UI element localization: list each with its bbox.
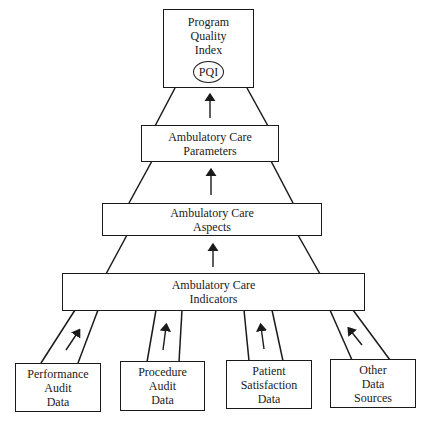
source-label-line: Data (47, 395, 70, 409)
tier-label-line: Ambulatory Care (172, 278, 256, 292)
arrow-up-icon (261, 327, 264, 349)
source-box-performance-audit: Performance Audit Data (15, 363, 101, 412)
tier-label-line: Ambulatory Care (168, 130, 252, 144)
source-label-line: Procedure (138, 365, 187, 379)
source-label-line: Data (151, 393, 174, 407)
source-label-line: Satisfaction (241, 378, 298, 392)
source-label-line: Sources (354, 391, 392, 405)
source-box-other-sources: Other Data Sources (330, 359, 416, 408)
source-label-line: Other (359, 363, 386, 377)
indicators-box: Ambulatory Care Indicators (62, 273, 365, 311)
tier-label-line: Ambulatory Care (170, 206, 254, 220)
pqi-label-line: Program (188, 15, 229, 29)
source-label-line: Data (258, 392, 281, 406)
source-label-line: Audit (149, 379, 176, 393)
arrow-up-icon (66, 332, 78, 350)
arrow-up-icon (163, 327, 166, 350)
source-box-patient-satisfaction: Patient Satisfaction Data (226, 360, 312, 409)
source-label-line: Data (362, 377, 385, 391)
tier-label-line: Indicators (190, 292, 238, 306)
tier-label-line: Parameters (183, 144, 236, 158)
aspects-box: Ambulatory Care Aspects (102, 203, 322, 236)
tier-label-line: Aspects (193, 220, 231, 234)
pqi-badge-text: PQI (199, 65, 218, 79)
pqi-label-line: Index (195, 43, 222, 57)
source-box-procedure-audit: Procedure Audit Data (120, 361, 205, 411)
program-quality-index-box: Program Quality Index PQI (163, 9, 254, 88)
source-label-line: Performance (27, 367, 88, 381)
pqi-label-line: Quality (191, 29, 227, 43)
source-label-line: Patient (252, 364, 285, 378)
parameters-box: Ambulatory Care Parameters (141, 125, 279, 162)
pqi-ellipse-badge: PQI (193, 61, 224, 83)
arrow-up-icon (350, 330, 362, 345)
source-label-line: Audit (44, 381, 71, 395)
